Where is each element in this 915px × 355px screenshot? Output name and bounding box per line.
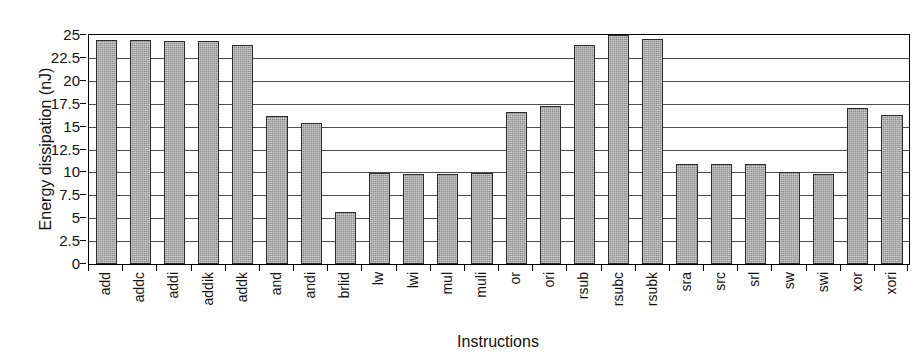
x-tick-label-mul: mul (439, 272, 455, 295)
y-tick-label: 17.5 (51, 94, 80, 111)
x-tick-label-andi: andi (302, 272, 318, 298)
x-tick-mark (396, 264, 397, 271)
x-tick-mark (88, 264, 89, 271)
y-tick-mark (80, 57, 86, 58)
plot-area (88, 34, 910, 265)
bar-ori (540, 106, 561, 264)
bar-src (711, 164, 732, 264)
bar-slot (431, 35, 465, 264)
bar-slot (841, 35, 875, 264)
bar-slot (89, 35, 123, 264)
y-tick-label: 22.5 (51, 48, 80, 65)
x-tick-mark (259, 264, 260, 271)
bar-slot (807, 35, 841, 264)
y-tick-label: 0 (72, 255, 80, 272)
x-label-slot: xori (874, 272, 908, 332)
y-axis-tick-labels: 2522.52017.51512.5107.552.50 (40, 34, 84, 263)
x-label-slot: lw (361, 272, 395, 332)
bar-slot (670, 35, 704, 264)
bar-srl (745, 164, 766, 264)
y-tick-mark (80, 149, 86, 150)
x-tick-mark (293, 264, 294, 271)
x-tick-mark (156, 264, 157, 271)
bar-sw (779, 172, 800, 264)
y-tick-label: 20 (63, 71, 80, 88)
x-tick-label-lwi: lwi (405, 272, 421, 288)
y-tick-mark (80, 263, 86, 264)
bar-slot (875, 35, 909, 264)
x-tick-label-addc: addc (131, 272, 147, 302)
y-tick-label: 25 (63, 26, 80, 43)
x-tick-label-swi: swi (815, 272, 831, 292)
bar-muli (471, 173, 492, 264)
x-label-slot: mul (430, 272, 464, 332)
y-tick-label: 12.5 (51, 140, 80, 157)
x-tick-slot (293, 264, 327, 271)
x-label-slot: sw (771, 272, 805, 332)
bar-lwi (403, 174, 424, 264)
x-tick-mark (874, 264, 875, 271)
y-tick-label: 2.5 (59, 232, 80, 249)
x-tick-slot (327, 264, 361, 271)
x-tick-slot (396, 264, 430, 271)
x-tick-mark (327, 264, 328, 271)
bar-add (96, 40, 117, 264)
x-axis-tick-marks (88, 264, 908, 271)
x-label-slot: and (259, 272, 293, 332)
bar-addi (164, 41, 185, 265)
x-tick-label-and: and (268, 272, 284, 295)
bar-slot (362, 35, 396, 264)
bar-xori (881, 115, 902, 264)
bar-sra (676, 164, 697, 264)
y-tick-mark (80, 103, 86, 104)
x-tick-mark (601, 264, 602, 271)
bar-slot (294, 35, 328, 264)
x-tick-mark (532, 264, 533, 271)
x-label-slot: muli (464, 272, 498, 332)
bar-addk (232, 45, 253, 264)
y-tick-label: 10 (63, 163, 80, 180)
x-tick-mark (907, 264, 908, 271)
x-label-slot: brlid (327, 272, 361, 332)
bar-addc (130, 40, 151, 264)
x-tick-mark (737, 264, 738, 271)
x-axis-title: Instructions (88, 333, 908, 351)
bar-rsubk (642, 39, 663, 264)
x-tick-mark (464, 264, 465, 271)
x-tick-slot (156, 264, 190, 271)
bar-slot (704, 35, 738, 264)
bar-andi (301, 123, 322, 264)
x-tick-mark (225, 264, 226, 271)
x-label-slot: addik (191, 272, 225, 332)
x-tick-mark (635, 264, 636, 271)
bar-swi (813, 174, 834, 264)
x-label-slot: rsubc (601, 272, 635, 332)
x-tick-label-addi: addi (165, 272, 181, 298)
bar-slot (738, 35, 772, 264)
x-tick-slot (361, 264, 395, 271)
x-tick-label-or: or (507, 272, 523, 284)
bar-slot (567, 35, 601, 264)
x-tick-label-add: add (97, 272, 113, 295)
x-tick-label-xor: xor (849, 272, 865, 291)
y-tick-mark (80, 217, 86, 218)
x-tick-label-rsubk: rsubk (644, 272, 660, 306)
x-tick-label-brlid: brlid (336, 272, 352, 298)
x-tick-mark (703, 264, 704, 271)
x-tick-slot (225, 264, 259, 271)
x-tick-slot (737, 264, 771, 271)
x-label-slot: add (88, 272, 122, 332)
x-label-slot: sra (669, 272, 703, 332)
bar-slot (465, 35, 499, 264)
x-tick-mark (191, 264, 192, 271)
x-label-slot: addi (156, 272, 190, 332)
y-tick-label: 5 (72, 209, 80, 226)
x-tick-slot (874, 264, 908, 271)
x-tick-label-rsubc: rsubc (610, 272, 626, 306)
x-tick-slot (498, 264, 532, 271)
x-tick-label-sw: sw (781, 272, 797, 289)
x-tick-slot (601, 264, 635, 271)
x-tick-label-lw: lw (370, 272, 386, 285)
x-tick-mark (430, 264, 431, 271)
x-tick-mark (361, 264, 362, 271)
